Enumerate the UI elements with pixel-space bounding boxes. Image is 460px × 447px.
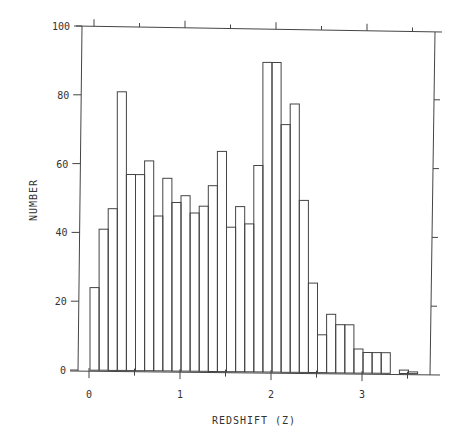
y-tick-label: 0 bbox=[60, 365, 66, 376]
x-tick-label: 3 bbox=[359, 389, 365, 400]
histogram-bar bbox=[263, 62, 272, 372]
right-axis-line bbox=[430, 32, 435, 375]
histogram-bar bbox=[117, 92, 126, 371]
histogram-bar bbox=[199, 206, 208, 371]
x-tick-label: 0 bbox=[86, 389, 92, 400]
histogram-bar bbox=[163, 178, 172, 371]
histogram-bars bbox=[90, 62, 418, 373]
histogram-bar bbox=[345, 325, 354, 373]
y-tick-label: 20 bbox=[55, 296, 67, 307]
histogram-bar bbox=[145, 161, 154, 371]
histogram-bar bbox=[381, 353, 390, 374]
histogram-bar bbox=[336, 325, 345, 373]
histogram-bar bbox=[318, 335, 327, 373]
histogram-bar bbox=[154, 216, 163, 371]
top-axis-line bbox=[76, 26, 442, 32]
histogram-bar bbox=[217, 151, 226, 371]
x-axis-title: REDSHIFT (Z) bbox=[212, 415, 296, 426]
histogram-bar bbox=[409, 372, 418, 374]
histogram-chart: 020406080100 0123 REDSHIFT (Z) NUMBER bbox=[0, 0, 460, 447]
histogram-bar bbox=[172, 203, 181, 372]
histogram-bar bbox=[299, 200, 308, 372]
y-tick-label: 40 bbox=[56, 227, 68, 238]
histogram-bar bbox=[181, 196, 190, 371]
histogram-bar bbox=[208, 186, 217, 372]
histogram-bar bbox=[236, 207, 245, 372]
histogram-bar bbox=[227, 227, 236, 372]
histogram-bar bbox=[308, 283, 317, 372]
y-tick-label: 60 bbox=[56, 159, 68, 170]
histogram-bar bbox=[290, 104, 299, 372]
y-axis-ticks: 020406080100 bbox=[52, 21, 82, 376]
histogram-bar bbox=[372, 353, 381, 374]
y-tick-label: 100 bbox=[52, 21, 70, 32]
y-axis-title: NUMBER bbox=[28, 179, 39, 221]
histogram-bar bbox=[190, 213, 199, 371]
left-axis-line bbox=[78, 26, 82, 371]
histogram-bar bbox=[254, 166, 263, 372]
histogram-bar bbox=[99, 229, 108, 370]
histogram-bar bbox=[108, 209, 117, 371]
plot-frame bbox=[70, 19, 442, 375]
histogram-bar bbox=[363, 353, 372, 374]
histogram-bar bbox=[272, 63, 281, 373]
histogram-bar bbox=[354, 349, 363, 373]
histogram-bar bbox=[90, 288, 99, 371]
y-tick-label: 80 bbox=[57, 90, 69, 101]
x-tick-label: 2 bbox=[268, 389, 274, 400]
histogram-bar bbox=[245, 224, 254, 372]
histogram-bar bbox=[281, 125, 290, 373]
histogram-bar bbox=[136, 175, 145, 371]
histogram-bar bbox=[126, 175, 135, 371]
x-tick-label: 1 bbox=[177, 389, 183, 400]
histogram-bar bbox=[327, 314, 336, 373]
